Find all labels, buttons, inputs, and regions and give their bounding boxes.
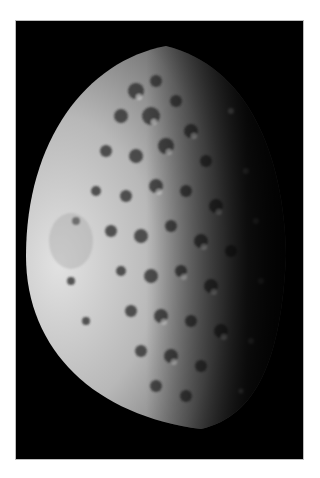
moon-photo (16, 21, 304, 460)
photo-frame (15, 20, 304, 460)
moon-disc (16, 21, 304, 460)
